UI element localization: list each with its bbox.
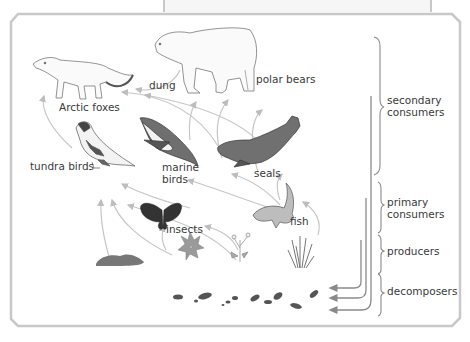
label-dung: dung	[149, 79, 176, 91]
moss-illustration	[96, 254, 144, 266]
label-decomposers: decomposers	[387, 285, 457, 297]
trophic-braces	[374, 37, 384, 316]
label-marine-birds: marine birds	[162, 161, 199, 185]
label-secondary-consumers: secondary consumers	[387, 94, 444, 118]
arctic-fox-illustration	[33, 57, 133, 99]
decomposition-arrows	[331, 96, 371, 310]
fish-illustration	[253, 183, 294, 228]
detritus-illustration	[173, 289, 319, 310]
label-arctic-foxes: Arctic foxes	[59, 101, 120, 113]
label-insects: insects	[166, 223, 203, 235]
label-producers: producers	[387, 245, 440, 257]
label-polar-bears: polar bears	[256, 73, 315, 85]
label-tundra-birds: tundra birds	[30, 160, 94, 172]
grass-illustration	[288, 236, 314, 268]
label-primary-consumers: primary consumers	[387, 196, 444, 220]
label-seals: seals	[254, 167, 281, 179]
label-fish: fish	[290, 215, 309, 227]
seal-illustration	[218, 116, 300, 167]
flower-illustration	[178, 232, 204, 260]
small-plant-illustration	[231, 233, 250, 262]
